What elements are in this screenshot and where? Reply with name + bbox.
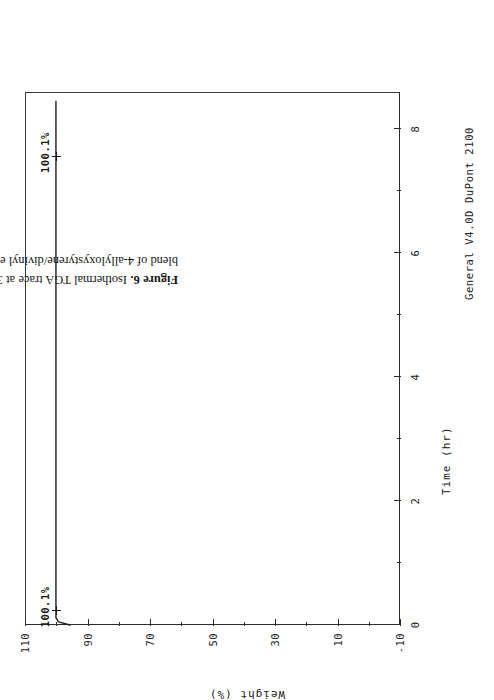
- y-tick-minor: [181, 622, 182, 626]
- x-tick-minor: [397, 438, 401, 439]
- y-tick-major: [150, 619, 151, 626]
- y-tick-major: [88, 619, 89, 626]
- y-tick-label: 10: [332, 633, 344, 665]
- y-tick-label: 90: [82, 633, 94, 665]
- y-tick-major: [213, 619, 214, 626]
- y-tick-label: 50: [207, 633, 219, 665]
- annotation-marker-start-weight: [56, 606, 57, 615]
- tga-weight-curve: [25, 92, 400, 625]
- y-tick-major: [338, 619, 339, 626]
- x-tick-label: 4: [409, 374, 421, 381]
- x-tick-major: [394, 128, 401, 129]
- chart-plot-area: 02468 -101030507090110 100.1%100.1%: [25, 92, 400, 625]
- y-tick-minor: [306, 622, 307, 626]
- x-axis-title: Time (hr): [440, 426, 453, 495]
- x-tick-minor: [397, 190, 401, 191]
- y-tick-minor: [369, 622, 370, 626]
- y-tick-major: [275, 619, 276, 626]
- annotation-label-start-weight: 100.1%: [39, 586, 51, 627]
- y-tick-minor: [56, 622, 57, 626]
- y-tick-label: 110: [19, 633, 31, 665]
- x-tick-label: 6: [409, 250, 421, 257]
- y-tick-label: 70: [144, 633, 156, 665]
- figure-stage: 02468 -101030507090110 100.1%100.1% Time…: [0, 0, 494, 700]
- x-tick-minor: [397, 562, 401, 563]
- y-tick-minor: [119, 622, 120, 626]
- x-tick-label: 0: [409, 622, 421, 629]
- figure-caption-label: Figure 6.: [130, 273, 178, 287]
- y-tick-major: [400, 619, 401, 626]
- figure-caption: Figure 6. Isothermal TGA trace at 300°C …: [0, 252, 178, 289]
- x-tick-major: [394, 500, 401, 501]
- y-tick-label: -10: [394, 633, 406, 665]
- y-tick-major: [25, 619, 26, 626]
- y-tick-minor: [244, 622, 245, 626]
- x-tick-label: 8: [409, 126, 421, 133]
- x-tick-label: 2: [409, 498, 421, 505]
- x-tick-minor: [397, 314, 401, 315]
- annotation-label-end-weight: 100.1%: [39, 132, 51, 173]
- y-axis-title: Weight (%): [209, 688, 285, 700]
- x-tick-major: [394, 252, 401, 253]
- x-tick-major: [394, 376, 401, 377]
- annotation-marker-end-weight: [56, 152, 57, 161]
- y-tick-label: 30: [269, 633, 281, 665]
- instrument-note: General V4.0D DuPont 2100: [463, 127, 475, 300]
